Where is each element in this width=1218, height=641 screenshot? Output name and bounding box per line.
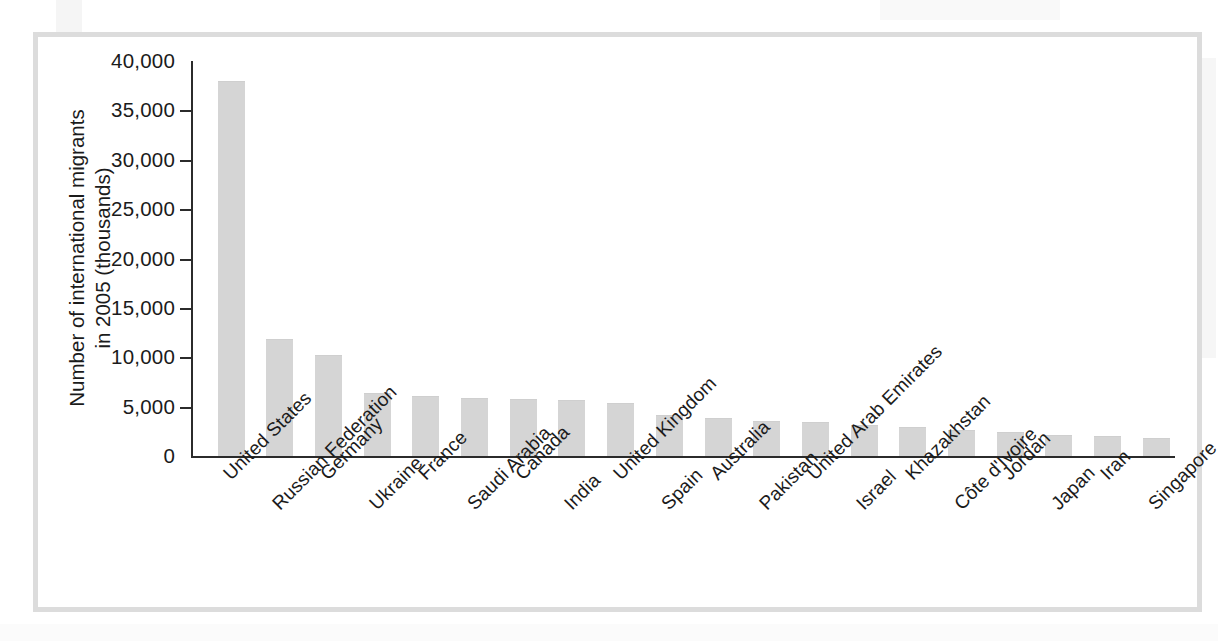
y-tick-label: 25,000 xyxy=(111,197,175,221)
y-tick-label: 40,000 xyxy=(111,49,175,73)
y-tick-label: 10,000 xyxy=(111,345,175,369)
y-tick-label: 30,000 xyxy=(111,148,175,172)
bar-united-states xyxy=(218,81,245,456)
y-tick-label: 0 xyxy=(163,444,175,468)
y-tick-label: 20,000 xyxy=(111,247,175,271)
x-label-israel: Israel xyxy=(852,466,901,515)
scan-artifact-bottom xyxy=(0,624,1218,641)
figure-frame: Number of international migrants in 2005… xyxy=(33,32,1202,612)
y-axis-title: Number of international migrants in 2005… xyxy=(70,0,110,93)
x-label-japan: Japan xyxy=(1047,462,1100,515)
scan-artifact-top-right xyxy=(880,0,1060,20)
x-label-india: India xyxy=(560,470,605,515)
x-axis-category-labels: United StatesRussian FederationGermanyUk… xyxy=(191,461,1201,611)
x-label-ukraine: Ukraine xyxy=(365,452,427,514)
y-tick-mark xyxy=(180,456,193,458)
bar-singapore xyxy=(1143,438,1170,456)
page-canvas: Number of international migrants in 2005… xyxy=(0,0,1218,641)
y-tick-label: 15,000 xyxy=(111,296,175,320)
x-label-spain: Spain xyxy=(657,464,707,514)
y-tick-label: 35,000 xyxy=(111,98,175,122)
y-tick-label: 5,000 xyxy=(123,395,175,419)
y-axis-title-line-1: Number of international migrants xyxy=(64,93,90,423)
figure-inner: Number of international migrants in 2005… xyxy=(38,37,1197,607)
